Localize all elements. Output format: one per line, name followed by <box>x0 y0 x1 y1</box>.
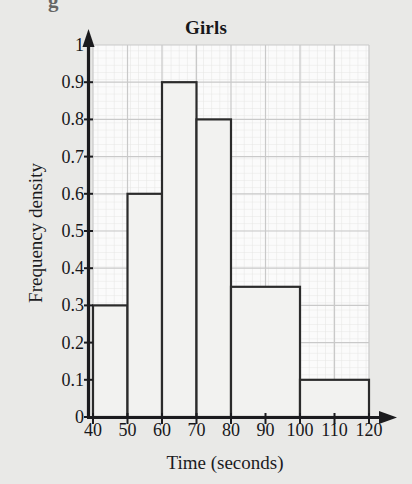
x-tick-label: 50 <box>119 421 137 439</box>
x-tick-label: 120 <box>356 421 383 439</box>
x-tick-label: 70 <box>188 421 206 439</box>
x-tick-label: 90 <box>257 421 275 439</box>
x-tick-label: 60 <box>153 421 171 439</box>
x-axis-title: Time (seconds) <box>60 452 390 474</box>
x-axis-tick-labels: 405060708090100110120 <box>0 0 412 484</box>
x-tick-label: 80 <box>222 421 240 439</box>
y-axis-title: Frequency density <box>25 118 47 348</box>
x-tick-label: 110 <box>321 421 347 439</box>
histogram-figure: g Girls 00.10.20.30.40.50.60.70.80.91 40… <box>0 0 412 484</box>
x-tick-label: 100 <box>287 421 314 439</box>
x-tick-label: 40 <box>84 421 102 439</box>
